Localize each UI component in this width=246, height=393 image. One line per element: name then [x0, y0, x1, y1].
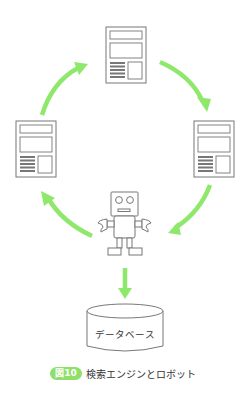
- figure-caption: 図10検索エンジンとロボット: [0, 366, 246, 381]
- arrowhead-robot-to-database: [118, 288, 132, 299]
- arrow-left-to-top: [42, 68, 78, 115]
- web-page-right-icon: [194, 121, 234, 177]
- search-engine-robot-diagram: データベース: [0, 0, 246, 393]
- database-icon: [87, 304, 163, 351]
- robot-icon: [98, 192, 151, 255]
- figure-number-badge: 図10: [50, 367, 82, 380]
- figure-caption-text: 検索エンジンとロボット: [86, 369, 196, 380]
- web-page-left-icon: [16, 121, 56, 177]
- database-label: データベース: [95, 329, 155, 340]
- arrow-top-to-right: [160, 62, 202, 100]
- arrowhead-top-to-right: [197, 97, 211, 112]
- arrow-robot-to-left: [48, 198, 92, 236]
- arrow-right-to-robot: [175, 185, 210, 228]
- web-page-top-icon: [106, 27, 146, 83]
